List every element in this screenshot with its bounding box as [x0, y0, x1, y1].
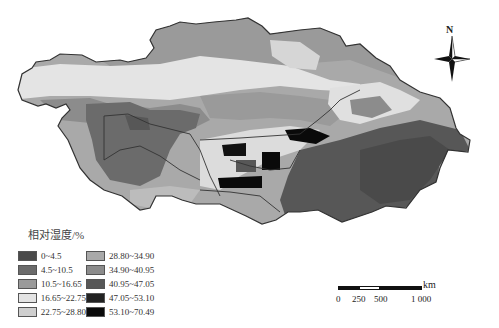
legend-swatch — [86, 307, 105, 317]
legend-swatch — [86, 251, 105, 261]
scale-tick: 250 — [352, 294, 366, 304]
legend-swatch — [18, 307, 37, 317]
legend-swatch — [18, 279, 37, 289]
legend-swatch — [18, 251, 37, 261]
legend-swatch — [86, 265, 105, 275]
legend-item: 0~4.5 — [18, 250, 86, 261]
scale-tick: 500 — [374, 294, 388, 304]
legend-item: 10.5~16.65 — [18, 278, 86, 289]
legend-item: 53.10~70.49 — [86, 306, 166, 317]
legend-swatch — [86, 293, 105, 303]
legend-title: 相对湿度/% — [28, 226, 166, 242]
scale-bar: km 0 250 500 1 000 — [336, 280, 476, 310]
scale-tick: 1 000 — [411, 294, 431, 304]
legend-swatch — [18, 293, 37, 303]
legend: 相对湿度/% 0~4.5 28.80~34.90 4.5~10.5 34.90~… — [18, 226, 166, 317]
legend-item: 22.75~28.80 — [18, 306, 86, 317]
scale-bar-graphic — [338, 286, 422, 290]
compass-star-icon — [432, 34, 472, 84]
legend-item: 16.65~22.75 — [18, 292, 86, 303]
north-arrow: N — [432, 24, 472, 84]
legend-item: 47.05~53.10 — [86, 292, 166, 303]
legend-swatch — [18, 265, 37, 275]
legend-item: 34.90~40.95 — [86, 264, 166, 275]
scale-tick: 0 — [336, 294, 341, 304]
legend-item: 28.80~34.90 — [86, 250, 166, 261]
scale-unit: km — [423, 279, 436, 290]
legend-item: 40.95~47.05 — [86, 278, 166, 289]
legend-swatch — [86, 279, 105, 289]
legend-item: 4.5~10.5 — [18, 264, 86, 275]
